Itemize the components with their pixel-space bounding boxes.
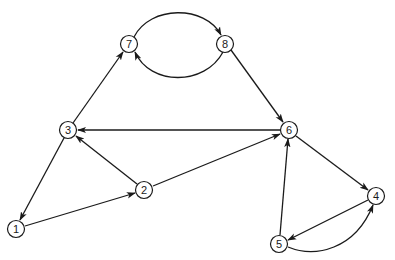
node-2: 2 bbox=[136, 182, 153, 199]
node-6-label: 6 bbox=[286, 124, 292, 136]
edge-4-to-5 bbox=[288, 200, 368, 240]
edge-3-to-7 bbox=[73, 52, 123, 123]
edge-5-to-6 bbox=[280, 139, 288, 235]
node-2-label: 2 bbox=[141, 184, 147, 196]
node-3-label: 3 bbox=[65, 124, 71, 136]
node-8: 8 bbox=[217, 36, 234, 53]
edge-2-to-6 bbox=[153, 134, 280, 186]
node-7: 7 bbox=[121, 36, 138, 53]
node-5-label: 5 bbox=[276, 238, 282, 250]
edge-8-to-7 bbox=[135, 52, 223, 78]
edge-8-to-6 bbox=[231, 50, 283, 122]
node-6: 6 bbox=[281, 122, 298, 139]
edge-6-to-4 bbox=[296, 136, 368, 190]
node-7-label: 7 bbox=[126, 38, 132, 50]
edge-3-to-1 bbox=[20, 138, 64, 220]
edge-1-to-2 bbox=[25, 193, 135, 226]
node-1-label: 1 bbox=[13, 223, 19, 235]
node-8-label: 8 bbox=[222, 38, 228, 50]
edge-7-to-8 bbox=[134, 13, 221, 37]
directed-graph: 1 2 3 4 5 6 7 8 bbox=[0, 0, 395, 260]
edge-2-to-3 bbox=[76, 136, 137, 184]
node-5: 5 bbox=[271, 236, 288, 253]
node-3: 3 bbox=[60, 122, 77, 139]
node-1: 1 bbox=[8, 221, 25, 238]
node-4: 4 bbox=[368, 188, 385, 205]
edge-5-to-4 bbox=[288, 205, 373, 251]
node-4-label: 4 bbox=[373, 190, 379, 202]
